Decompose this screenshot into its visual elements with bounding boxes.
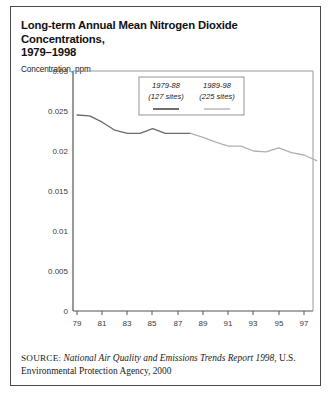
legend-label-1: 1979-88	[152, 81, 181, 90]
y-tick-label-group: 0.03 0.025 0.02 0.015 0.01 0.005 0	[48, 67, 69, 316]
series-line-1989-98	[191, 133, 317, 160]
x-tick-label: 83	[123, 319, 132, 328]
y-tick-label: 0.005	[48, 267, 69, 276]
page-title: Long-term Annual Mean Nitrogen Dioxide C…	[21, 19, 301, 60]
line-chart: 0.03 0.025 0.02 0.015 0.01 0.005 0	[11, 65, 322, 350]
x-tick-label: 79	[73, 319, 82, 328]
chart-legend: 1979-88 (127 sites) 1989-98 (225 sites)	[139, 77, 244, 115]
x-tick-label: 81	[98, 319, 107, 328]
x-tick-label: 91	[224, 319, 233, 328]
y-tick-label: 0.02	[52, 147, 68, 156]
figure-inner: Long-term Annual Mean Nitrogen Dioxide C…	[11, 7, 320, 385]
x-tick-label: 93	[249, 319, 258, 328]
x-tick-label: 95	[275, 319, 284, 328]
x-tick-mark-group	[77, 311, 304, 315]
title-line-2: 1979–1998	[21, 46, 76, 58]
y-tick-label: 0.015	[48, 187, 69, 196]
y-tick-label: 0	[64, 307, 69, 316]
x-tick-label: 85	[148, 319, 157, 328]
x-tick-label: 89	[199, 319, 208, 328]
legend-sites-2: (225 sites)	[199, 92, 235, 101]
series-line-1979-88	[77, 115, 191, 133]
y-tick-label: 0.025	[48, 107, 69, 116]
x-tick-label: 97	[300, 319, 309, 328]
source-title: National Air Quality and Emissions Trend…	[64, 353, 275, 363]
figure-panel: Long-term Annual Mean Nitrogen Dioxide C…	[10, 6, 321, 386]
x-tick-label: 87	[174, 319, 183, 328]
source-note: SOURCE: National Air Quality and Emissio…	[21, 352, 313, 377]
source-label: SOURCE:	[21, 353, 61, 363]
y-tick-label: 0.03	[52, 67, 68, 76]
title-line-1: Long-term Annual Mean Nitrogen Dioxide C…	[21, 19, 238, 45]
y-tick-label: 0.01	[52, 227, 68, 236]
legend-sites-1: (127 sites)	[148, 92, 184, 101]
chart-plot-area: 0.03 0.025 0.02 0.015 0.01 0.005 0	[11, 65, 322, 350]
legend-label-2: 1989-98	[203, 81, 232, 90]
x-tick-label-group: 79 81 83 85 87 89 91 93 95 97	[73, 319, 309, 328]
